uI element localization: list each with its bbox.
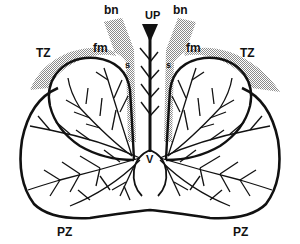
label-fibromuscular-right: fm: [186, 42, 201, 54]
label-transition-zone-right: TZ: [240, 47, 255, 59]
label-sphincter-right: s: [166, 59, 171, 71]
label-urethra: UP: [145, 9, 160, 21]
urethra: [140, 24, 159, 152]
label-peripheral-zone-right: PZ: [233, 226, 248, 238]
label-transition-zone-left: TZ: [36, 47, 51, 59]
label-verumontanum: V: [146, 153, 153, 165]
label-sphincter-left: s: [125, 59, 130, 71]
prostate-diagram: [0, 0, 300, 244]
fibromuscular-stroma-right: [164, 18, 280, 142]
fibromuscular-stroma-left: [30, 18, 136, 142]
label-bladder-neck-left: bn: [104, 4, 119, 16]
label-fibromuscular-left: fm: [93, 42, 108, 54]
label-peripheral-zone-left: PZ: [57, 226, 72, 238]
label-bladder-neck-right: bn: [173, 4, 188, 16]
